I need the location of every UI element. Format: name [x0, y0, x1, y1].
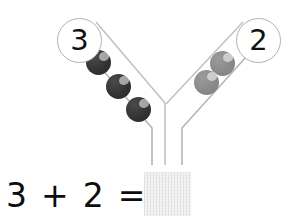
counter-dot-light: [194, 70, 219, 95]
counter-dot-dark: [106, 74, 131, 99]
equation-row: 3 + 2 =: [6, 174, 145, 216]
counter-dot-dark: [126, 97, 151, 122]
left-addend-bubble-label: 3: [70, 26, 88, 55]
equals-sign-icon: =: [118, 179, 146, 212]
worksheet-canvas: 3 2 3 + 2 =: [0, 0, 287, 216]
equation-first-addend: 3: [6, 179, 27, 212]
plus-sign-icon: +: [41, 179, 69, 212]
answer-input-box[interactable]: [144, 172, 191, 216]
right-addend-bubble: 2: [236, 18, 281, 63]
right-addend-bubble-label: 2: [249, 26, 267, 55]
equation-second-addend: 2: [83, 179, 104, 212]
left-addend-bubble: 3: [57, 18, 102, 63]
left-branch-inner-rail: [96, 22, 165, 165]
